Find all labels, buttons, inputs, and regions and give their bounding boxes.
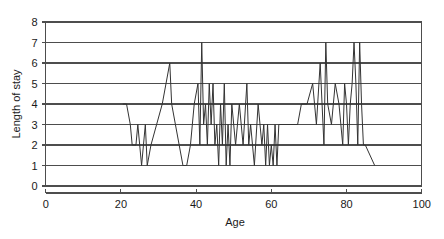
y-tick-label-1: 1 bbox=[32, 160, 38, 172]
x-tick-label-40: 40 bbox=[190, 198, 202, 210]
x-tick-label-100: 100 bbox=[413, 198, 431, 210]
x-tick-label-20: 20 bbox=[115, 198, 127, 210]
y-axis-title: Length of stay bbox=[10, 69, 22, 139]
y-tick-label-2: 2 bbox=[32, 139, 38, 151]
y-tick-label-5: 5 bbox=[32, 78, 38, 90]
y-axis bbox=[42, 22, 46, 186]
x-tick-labels: 020406080100 bbox=[43, 198, 431, 210]
y-tick-label-3: 3 bbox=[32, 119, 38, 131]
x-tick-label-80: 80 bbox=[340, 198, 352, 210]
y-tick-label-8: 8 bbox=[32, 16, 38, 28]
y-tick-label-4: 4 bbox=[32, 98, 38, 110]
grid-lines bbox=[46, 22, 422, 186]
x-tick-label-0: 0 bbox=[43, 198, 49, 210]
x-axis-title: Age bbox=[225, 216, 245, 228]
y-tick-labels: 012345678 bbox=[32, 16, 38, 192]
x-tick-label-60: 60 bbox=[265, 198, 277, 210]
y-tick-label-0: 0 bbox=[32, 180, 38, 192]
y-tick-label-6: 6 bbox=[32, 57, 38, 69]
chart-container: 012345678 020406080100 Length of stay Ag… bbox=[0, 0, 444, 239]
y-tick-label-7: 7 bbox=[32, 37, 38, 49]
x-axis bbox=[46, 189, 422, 193]
line-chart: 012345678 020406080100 Length of stay Ag… bbox=[0, 0, 444, 239]
